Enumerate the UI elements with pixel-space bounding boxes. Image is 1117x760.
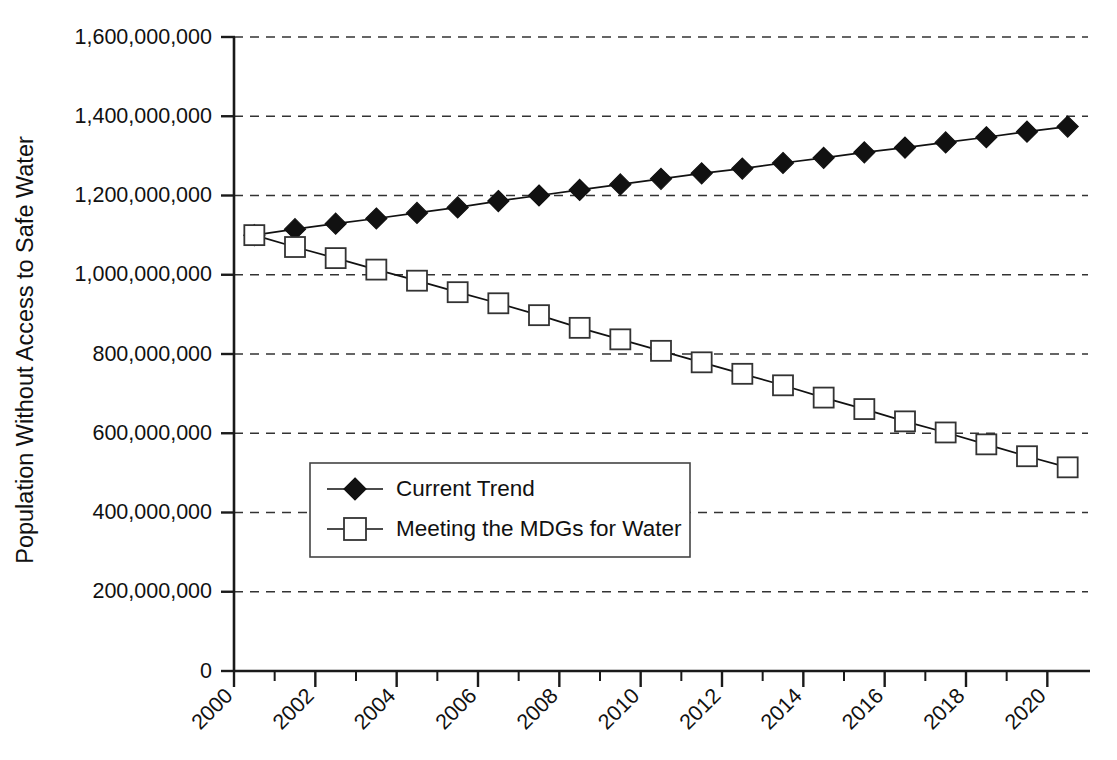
data-point-marker	[651, 168, 672, 189]
data-point-marker	[407, 271, 427, 291]
data-point-marker	[407, 202, 428, 223]
data-point-marker	[488, 293, 508, 313]
data-point-marker	[976, 434, 996, 454]
chart-container: 0200,000,000400,000,000600,000,000800,00…	[0, 0, 1117, 760]
data-point-marker	[610, 174, 631, 195]
data-point-marker	[570, 318, 590, 338]
chart-legend: Current Trend Meeting the MDGs for Water	[310, 463, 690, 557]
data-point-marker	[1057, 116, 1078, 137]
data-point-marker	[813, 147, 834, 168]
x-axis-tick-label: 2016	[837, 684, 888, 735]
y-axis-tick-label: 800,000,000	[92, 342, 212, 366]
data-point-marker	[976, 127, 997, 148]
data-point-marker	[854, 142, 875, 163]
data-series-group	[244, 116, 1078, 477]
data-point-marker	[692, 352, 712, 372]
data-point-marker	[1017, 121, 1038, 142]
x-axis-ticks-group	[234, 670, 1047, 687]
y-axis-tick-label: 1,000,000,000	[75, 262, 213, 286]
data-point-marker	[325, 213, 346, 234]
data-point-marker	[366, 260, 386, 280]
data-point-marker	[488, 191, 509, 212]
x-axis-tick-label: 2000	[187, 684, 238, 735]
data-point-marker	[895, 137, 916, 158]
data-point-marker	[651, 341, 671, 361]
data-point-marker	[529, 305, 549, 325]
x-axis-tick-label: 2018	[919, 684, 970, 735]
y-axis-tick-label: 0	[200, 659, 212, 683]
y-axis-tick-label: 1,600,000,000	[75, 25, 213, 49]
data-point-marker	[854, 399, 874, 419]
y-axis-tick-label: 600,000,000	[92, 421, 212, 445]
x-axis-tick-label: 2004	[349, 684, 400, 735]
data-point-marker	[244, 225, 264, 245]
data-point-marker	[773, 153, 794, 174]
data-point-marker	[529, 185, 550, 206]
line-chart: 0200,000,000400,000,000600,000,000800,00…	[0, 0, 1117, 760]
data-point-marker	[691, 163, 712, 184]
data-point-marker	[610, 329, 630, 349]
data-point-marker	[1058, 457, 1078, 477]
data-point-marker	[285, 237, 305, 257]
x-axis-tick-labels-group: 2000200220042006200820102012201420162018…	[187, 684, 1051, 735]
y-axis-tick-label: 200,000,000	[92, 579, 212, 603]
data-point-marker	[447, 197, 468, 218]
data-point-marker	[732, 364, 752, 384]
x-axis-tick-label: 2002	[268, 684, 319, 735]
data-point-marker	[1017, 446, 1037, 466]
series-1	[244, 116, 1078, 246]
x-axis-tick-label: 2012	[675, 684, 726, 735]
x-axis-tick-label: 2008	[512, 684, 563, 735]
legend-label-meeting-mdgs: Meeting the MDGs for Water	[396, 516, 682, 541]
legend-label-current-trend: Current Trend	[396, 476, 535, 501]
data-point-marker	[326, 248, 346, 268]
x-axis-tick-label: 2020	[1000, 684, 1051, 735]
y-axis-tick-label: 400,000,000	[92, 500, 212, 524]
data-point-marker	[773, 375, 793, 395]
y-axis-title: Population Without Access to Safe Water	[12, 136, 38, 564]
x-axis-tick-label: 2014	[756, 684, 807, 735]
x-axis-tick-label: 2010	[593, 684, 644, 735]
open-square-icon	[344, 518, 366, 540]
y-axis-tick-label: 1,200,000,000	[75, 183, 213, 207]
data-point-marker	[814, 388, 834, 408]
data-point-marker	[732, 158, 753, 179]
y-axis-tick-label: 1,400,000,000	[75, 104, 213, 128]
data-point-marker	[936, 422, 956, 442]
data-point-marker	[895, 411, 915, 431]
data-point-marker	[448, 282, 468, 302]
data-point-marker	[366, 208, 387, 229]
data-point-marker	[569, 179, 590, 200]
y-axis-tick-labels-group: 0200,000,000400,000,000600,000,000800,00…	[75, 25, 213, 683]
series-2	[244, 225, 1077, 477]
data-point-marker	[935, 132, 956, 153]
x-axis-tick-label: 2006	[431, 684, 482, 735]
